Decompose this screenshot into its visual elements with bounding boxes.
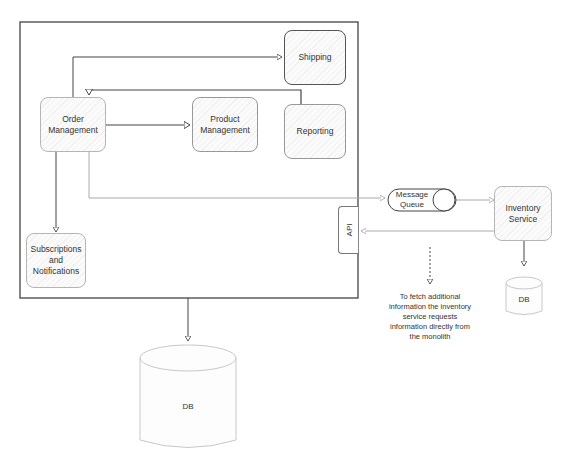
shipping-label: Shipping [298, 52, 331, 63]
product-management-service[interactable]: Product Management [192, 97, 258, 152]
order-management-label: Order Management [48, 114, 98, 136]
inventory-service-label: Inventory Service [506, 203, 541, 225]
monolith-db-label: DB [140, 402, 236, 411]
reporting-service[interactable]: Reporting [284, 104, 346, 159]
annotation-text: To fetch additional information the inve… [380, 292, 480, 342]
shipping-service[interactable]: Shipping [284, 30, 346, 85]
message-queue-label: Message Queue [388, 190, 436, 210]
inventory-db-label: DB [506, 295, 542, 304]
reporting-label: Reporting [297, 126, 334, 137]
subscriptions-label: Subscriptions and Notifications [30, 244, 81, 277]
subscriptions-notifications-service[interactable]: Subscriptions and Notifications [26, 233, 86, 288]
inventory-service[interactable]: Inventory Service [494, 186, 552, 241]
monolith-db-cylinder [140, 345, 236, 448]
api-label: API [344, 224, 353, 237]
api-endpoint[interactable]: API [338, 206, 358, 254]
order-management-service[interactable]: Order Management [40, 97, 106, 152]
product-management-label: Product Management [200, 114, 250, 136]
